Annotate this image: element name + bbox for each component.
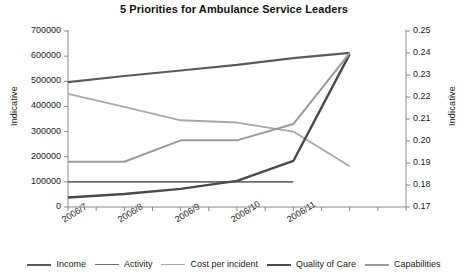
legend-swatch: [95, 264, 119, 265]
legend-item[interactable]: Income: [27, 260, 86, 269]
legend-label: Activity: [124, 260, 153, 269]
plot-area: [0, 0, 468, 279]
series-line: [68, 54, 350, 197]
legend-swatch: [365, 264, 389, 266]
legend-item[interactable]: Capabilities: [365, 260, 441, 269]
legend-label: Cost per incident: [190, 260, 258, 269]
legend-swatch: [27, 264, 51, 266]
legend-label: Income: [56, 260, 86, 269]
legend-swatch: [161, 264, 185, 265]
chart-container: 5 Priorities for Ambulance Service Leade…: [0, 0, 468, 279]
legend-label: Capabilities: [394, 260, 441, 269]
legend-item[interactable]: Quality of Care: [267, 260, 356, 269]
legend-label: Quality of Care: [296, 260, 356, 269]
chart-legend: IncomeActivityCost per incidentQuality o…: [0, 260, 468, 269]
legend-item[interactable]: Activity: [95, 260, 153, 269]
series-line: [68, 53, 350, 162]
series-line: [68, 53, 350, 82]
legend-item[interactable]: Cost per incident: [161, 260, 258, 269]
legend-swatch: [267, 264, 291, 266]
